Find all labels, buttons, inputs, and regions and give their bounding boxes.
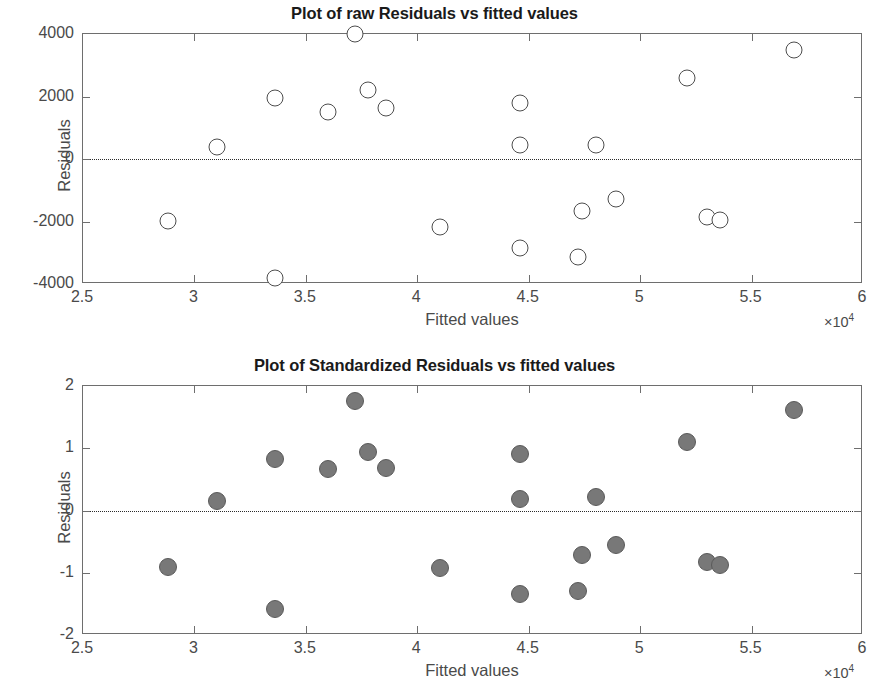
y-tick-mark (854, 573, 861, 574)
x-tick-mark (306, 34, 307, 41)
x-tick-label: 6 (858, 639, 867, 657)
x-tick-mark (306, 626, 307, 633)
x-tick-mark (752, 275, 753, 282)
x-tick-mark (529, 626, 530, 633)
x-tick-mark (194, 275, 195, 282)
x-tick-label: 3 (189, 639, 198, 657)
data-point-marker (511, 136, 528, 153)
data-point-marker (511, 95, 528, 112)
x-tick-mark (306, 386, 307, 393)
data-point-marker (511, 445, 529, 463)
data-point-marker (159, 558, 177, 576)
data-point-marker (785, 401, 803, 419)
x-tick-mark (640, 275, 641, 282)
x-tick-label: 4 (412, 639, 421, 657)
x-axis-exponent-raw: ×104 (824, 312, 854, 330)
x-tick-label: 5.5 (739, 639, 761, 657)
data-point-marker (711, 556, 729, 574)
data-point-marker (377, 459, 395, 477)
data-point-marker (266, 269, 283, 286)
data-point-marker (587, 136, 604, 153)
y-tick-mark (83, 448, 90, 449)
x-tick-mark (752, 34, 753, 41)
data-point-marker (574, 202, 591, 219)
data-point-marker (587, 488, 605, 506)
y-tick-mark (83, 222, 90, 223)
x-tick-mark (417, 386, 418, 393)
data-point-marker (319, 460, 337, 478)
data-point-marker (159, 212, 176, 229)
data-point-marker (346, 392, 364, 410)
x-axis-label-raw: Fitted values (362, 310, 582, 329)
y-tick-mark (83, 573, 90, 574)
data-point-marker (346, 26, 363, 43)
data-point-marker (511, 585, 529, 603)
panel-raw-residuals: Plot of raw Residuals vs fitted values -… (0, 0, 869, 344)
x-tick-mark (194, 34, 195, 41)
data-point-marker (678, 433, 696, 451)
x-tick-mark (417, 275, 418, 282)
y-tick-mark (83, 97, 90, 98)
exponent-base: ×10 (824, 314, 849, 330)
y-tick-label: -4000 (0, 274, 74, 292)
y-tick-mark (854, 222, 861, 223)
data-point-marker (699, 208, 716, 225)
data-point-marker (569, 248, 586, 265)
data-point-marker (698, 553, 716, 571)
data-point-marker (607, 191, 624, 208)
exponent-base: ×10 (824, 665, 849, 681)
data-point-marker (431, 559, 449, 577)
y-tick-label: -2 (0, 625, 74, 643)
x-tick-mark (752, 626, 753, 633)
data-point-marker (569, 582, 587, 600)
plot-area-raw (82, 33, 862, 283)
data-point-marker (712, 212, 729, 229)
x-tick-label: 6 (858, 288, 867, 306)
data-point-marker (266, 450, 284, 468)
marker-layer-raw (83, 34, 861, 282)
x-tick-mark (194, 626, 195, 633)
x-tick-mark (529, 34, 530, 41)
figure-root: Plot of raw Residuals vs fitted values -… (0, 0, 869, 687)
x-tick-label: 5 (635, 288, 644, 306)
x-tick-mark (752, 386, 753, 393)
x-tick-label: 4.5 (517, 639, 539, 657)
data-point-marker (431, 219, 448, 236)
data-point-marker (607, 536, 625, 554)
panel-standardized-residuals: Plot of Standardized Residuals vs fitted… (0, 344, 869, 687)
data-point-marker (360, 82, 377, 99)
data-point-marker (208, 139, 225, 156)
data-point-marker (678, 70, 695, 87)
data-point-marker (511, 240, 528, 257)
x-tick-mark (640, 626, 641, 633)
zero-reference-line-raw (83, 159, 861, 160)
data-point-marker (266, 600, 284, 618)
y-axis-label-raw: Residuals (55, 96, 74, 216)
x-tick-mark (529, 275, 530, 282)
x-tick-mark (529, 386, 530, 393)
data-point-marker (785, 42, 802, 59)
marker-layer-standardized (83, 386, 861, 633)
x-tick-mark (640, 386, 641, 393)
x-tick-mark (640, 34, 641, 41)
x-tick-label: 2.5 (71, 288, 93, 306)
data-point-marker (208, 492, 226, 510)
zero-reference-line-standardized (83, 511, 861, 512)
data-point-marker (359, 443, 377, 461)
x-tick-mark (417, 34, 418, 41)
x-tick-label: 2.5 (71, 639, 93, 657)
data-point-marker (573, 546, 591, 564)
y-tick-mark (854, 97, 861, 98)
x-tick-label: 4.5 (517, 288, 539, 306)
tick-layer-raw (83, 34, 861, 282)
data-point-marker (320, 103, 337, 120)
x-tick-label: 4 (412, 288, 421, 306)
chart-title-raw: Plot of raw Residuals vs fitted values (0, 4, 869, 23)
plot-area-standardized (82, 385, 862, 634)
x-tick-mark (417, 626, 418, 633)
data-point-marker (511, 490, 529, 508)
chart-title-standardized: Plot of Standardized Residuals vs fitted… (0, 356, 869, 375)
y-tick-label: 2 (0, 376, 74, 394)
y-tick-mark (854, 448, 861, 449)
tick-layer-standardized (83, 386, 861, 633)
